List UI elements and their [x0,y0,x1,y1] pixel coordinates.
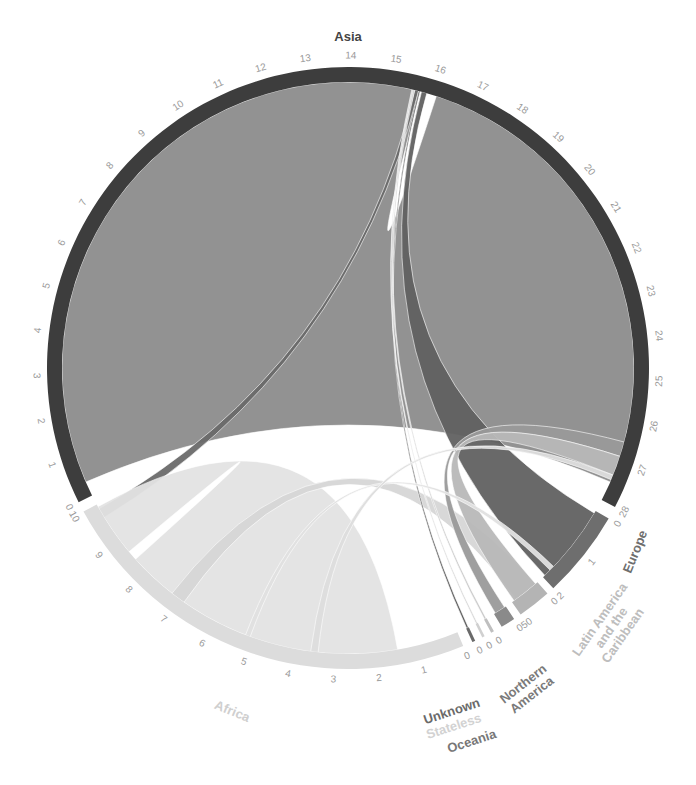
tick-label: 7 [158,613,169,625]
group-arc-unknown [466,627,475,642]
tick-label: 2 [35,417,47,425]
tick-label: 0 [494,634,505,647]
tick-label: 6 [197,637,207,650]
tick-label: 23 [644,284,658,298]
chords-layer [62,82,634,654]
region-label-latin-america-and-the-caribbean: Latin Americaand theCaribbean [569,579,654,674]
tick-label: 14 [345,50,357,61]
tick-label: 12 [254,61,268,75]
region-label-northern-america: NorthernAmerica [497,661,558,718]
region-label-asia: Asia [334,29,362,44]
region-label-line: Asia [334,29,362,44]
tick-label: 0 [484,639,494,652]
tick-label: 4 [284,667,292,679]
tick-label: 9 [136,127,148,139]
tick-label: 9 [93,549,105,560]
tick-label: 11 [211,76,225,91]
chord-africa-to-africa [98,461,398,654]
region-label-europe: Europe [620,528,651,575]
tick-label: 25 [653,375,664,387]
tick-label: 8 [123,583,135,595]
group-arc-stateless [476,623,485,638]
tick-label: 0 [462,649,472,661]
tick-label: 1 [420,664,428,676]
tick-label: 10 [67,509,82,524]
tick-label: 7 [77,197,90,208]
region-label-line: Africa [213,697,253,725]
tick-label: 18 [515,101,531,117]
tick-label: 13 [299,52,312,64]
tick-label: 28 [617,504,632,519]
tick-label: 3 [31,373,42,379]
tick-label: 15 [390,53,403,66]
tick-label: 0 [611,518,624,529]
tick-label: 1 [46,461,58,470]
tick-label: 5 [240,655,249,667]
region-label-africa: Africa [213,697,253,725]
chord-diagram: 0123456789101112131415161718192021222324… [0,0,696,785]
tick-label: 10 [170,98,186,114]
tick-label: 4 [32,326,44,333]
region-label-line: Europe [620,528,651,575]
tick-label: 5 [40,281,52,290]
tick-label: 3 [330,673,337,684]
tick-label: 20 [582,162,598,178]
tick-label: 24 [653,330,665,343]
chord-asia-to-asia [62,82,634,482]
group-arc-oceania [484,618,494,633]
tick-label: 17 [476,78,491,93]
tick-label: 27 [635,463,649,478]
tick-label: 1 [585,556,597,568]
tick-label: 21 [609,199,624,215]
tick-label: 8 [104,159,116,171]
tick-label: 26 [647,419,660,432]
tick-label: 19 [551,129,567,145]
tick-label: 0 [475,644,485,657]
tick-label: 2 [376,672,383,684]
tick-label: 6 [55,237,67,247]
tick-label: 16 [434,62,448,76]
tick-label: 22 [630,240,645,255]
